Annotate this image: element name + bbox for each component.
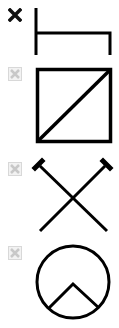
circle-chevron-icon [0,238,119,328]
option-square-diagonal-shape[interactable] [0,62,119,150]
option-circle-chevron-shape[interactable] [0,238,119,328]
square-diagonal-icon [0,62,119,150]
bracket-icon [0,0,119,62]
option-bracket-shape[interactable] [0,0,119,62]
option-cross-pins-shape[interactable] [0,150,119,238]
crossed-pins-icon [0,150,119,238]
